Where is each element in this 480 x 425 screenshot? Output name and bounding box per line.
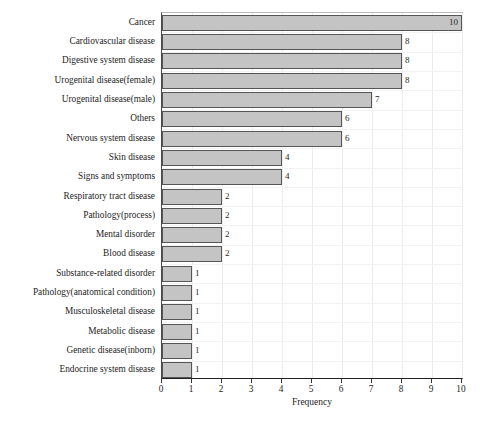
category-label: Cancer	[0, 17, 155, 27]
bar-row: 1	[162, 362, 464, 378]
bar-value-label: 7	[375, 95, 380, 104]
category-label: Signs and symptoms	[0, 171, 155, 181]
category-label: Mental disorder	[0, 229, 155, 239]
bar-value-label: 1	[195, 288, 200, 297]
bar-value-label: 6	[345, 134, 350, 143]
category-label: Digestive system disease	[0, 55, 155, 65]
bar-value-label: 2	[225, 192, 230, 201]
bar	[162, 34, 402, 50]
bar-row: 4	[162, 169, 464, 185]
bar	[162, 362, 192, 378]
x-tick-label: 1	[180, 384, 202, 395]
bar	[162, 246, 222, 262]
category-label: Pathology(process)	[0, 210, 155, 220]
x-tick-mark	[191, 379, 192, 383]
x-tick-mark	[161, 379, 162, 383]
bar	[162, 131, 342, 147]
x-tick-mark	[281, 379, 282, 383]
bar-row: 7	[162, 92, 464, 108]
bar	[162, 285, 192, 301]
x-tick-label: 6	[330, 384, 352, 395]
bar	[162, 208, 222, 224]
bar-row: 1	[162, 304, 464, 320]
bar-value-label: 6	[345, 114, 350, 123]
bars-layer: 10888766442222111111	[162, 13, 462, 378]
bar-row: 1	[162, 343, 464, 359]
bar-row: 6	[162, 111, 464, 127]
x-tick-mark	[251, 379, 252, 383]
bar-row: 4	[162, 150, 464, 166]
bar-value-label: 4	[285, 153, 290, 162]
x-tick-mark	[401, 379, 402, 383]
bar-row: 8	[162, 34, 464, 50]
bar-row: 1	[162, 285, 464, 301]
bar-row: 2	[162, 189, 464, 205]
bar-value-label: 2	[225, 249, 230, 258]
bar	[162, 343, 192, 359]
bar	[162, 15, 462, 31]
x-tick-mark	[371, 379, 372, 383]
bar-value-label: 1	[195, 269, 200, 278]
x-tick-label: 9	[420, 384, 442, 395]
category-label: Substance-related disorder	[0, 268, 155, 278]
bar-row: 1	[162, 324, 464, 340]
bar-value-label: 2	[225, 230, 230, 239]
category-label: Pathology(anatomical condition)	[0, 287, 155, 297]
bar-value-label: 8	[405, 76, 410, 85]
bar	[162, 227, 222, 243]
bar-value-label: 1	[195, 346, 200, 355]
bar-row: 6	[162, 131, 464, 147]
x-tick-label: 10	[450, 384, 472, 395]
x-tick-label: 0	[150, 384, 172, 395]
bar	[162, 169, 282, 185]
x-tick-mark	[311, 379, 312, 383]
bar	[162, 53, 402, 69]
bar	[162, 304, 192, 320]
category-label: Musculoskeletal disease	[0, 306, 155, 316]
bar-row: 8	[162, 73, 464, 89]
category-axis-labels: CancerCardiovascular diseaseDigestive sy…	[0, 12, 155, 379]
bar	[162, 266, 192, 282]
bar-value-label: 1	[195, 365, 200, 374]
x-axis-tick-labels: 012345678910	[0, 384, 480, 396]
category-label: Cardiovascular disease	[0, 36, 155, 46]
bar	[162, 73, 402, 89]
x-tick-mark	[431, 379, 432, 383]
category-label: Skin disease	[0, 152, 155, 162]
category-label: Nervous system disease	[0, 133, 155, 143]
bar	[162, 150, 282, 166]
bar	[162, 189, 222, 205]
x-tick-label: 8	[390, 384, 412, 395]
bar-value-label: 10	[449, 18, 458, 27]
x-tick-label: 3	[240, 384, 262, 395]
bar-row: 10	[162, 15, 464, 31]
category-label: Respiratory tract disease	[0, 191, 155, 201]
bar-chart-figure: CancerCardiovascular diseaseDigestive sy…	[0, 0, 480, 425]
x-tick-mark	[461, 379, 462, 383]
x-tick-label: 4	[270, 384, 292, 395]
bar	[162, 324, 192, 340]
bar-row: 2	[162, 227, 464, 243]
category-label: Urogenital disease(female)	[0, 75, 155, 85]
bar	[162, 92, 372, 108]
bar-value-label: 1	[195, 327, 200, 336]
bar-row: 2	[162, 246, 464, 262]
plot-area: 10888766442222111111	[161, 12, 463, 379]
x-tick-label: 2	[210, 384, 232, 395]
category-label: Genetic disease(inborn)	[0, 345, 155, 355]
category-label: Urogenital disease(male)	[0, 94, 155, 104]
x-tick-label: 5	[300, 384, 322, 395]
x-tick-label: 7	[360, 384, 382, 395]
bar-row: 1	[162, 266, 464, 282]
x-tick-mark	[341, 379, 342, 383]
category-label: Others	[0, 113, 155, 123]
x-tick-mark	[221, 379, 222, 383]
bar-value-label: 4	[285, 172, 290, 181]
bar-row: 8	[162, 53, 464, 69]
category-label: Blood disease	[0, 248, 155, 258]
bar	[162, 111, 342, 127]
x-axis-title: Frequency	[161, 397, 463, 408]
bar-value-label: 1	[195, 307, 200, 316]
category-label: Endocrine system disease	[0, 364, 155, 374]
bar-value-label: 2	[225, 211, 230, 220]
